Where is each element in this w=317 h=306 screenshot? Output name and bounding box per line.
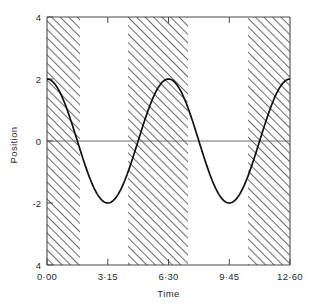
position-vs-time-chart: 4 2 0 -2 4 0·00 3·15 6·30 9·45 12·60 Tim… bbox=[0, 0, 317, 306]
x-axis-title: Time bbox=[157, 288, 179, 299]
y-tick-label: 4 bbox=[36, 12, 41, 23]
x-tick-label: 12·60 bbox=[277, 271, 303, 282]
x-tick-label: 9·45 bbox=[219, 271, 239, 282]
x-tick-label: 0·00 bbox=[37, 271, 57, 282]
x-tick-label: 6·30 bbox=[158, 271, 178, 282]
y-tick-label: 4 bbox=[36, 260, 41, 271]
chart-figure: 4 2 0 -2 4 0·00 3·15 6·30 9·45 12·60 Tim… bbox=[0, 0, 317, 306]
y-tick-label: -2 bbox=[33, 198, 41, 209]
x-tick-labels: 0·00 3·15 6·30 9·45 12·60 bbox=[37, 271, 303, 282]
y-axis-title: Position bbox=[8, 127, 19, 164]
y-tick-label: 0 bbox=[36, 136, 41, 147]
y-tick-labels: 4 2 0 -2 4 bbox=[33, 12, 41, 271]
x-tick-label: 3·15 bbox=[98, 271, 118, 282]
y-tick-label: 2 bbox=[36, 74, 41, 85]
